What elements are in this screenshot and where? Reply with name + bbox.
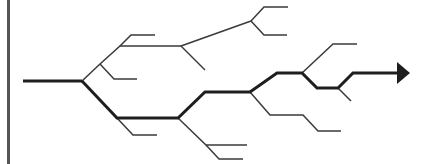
tree-branch <box>338 88 351 101</box>
branching-tree-diagram <box>0 0 431 164</box>
arrow-head-icon <box>397 62 410 84</box>
tree-branch <box>206 145 243 159</box>
left-vertical-bar <box>7 0 10 164</box>
tree-branch <box>302 44 357 73</box>
tree-branch <box>181 46 205 70</box>
tree-branch <box>181 21 251 46</box>
tree-branch <box>120 35 155 46</box>
tree-branches <box>82 7 357 159</box>
tree-branch <box>100 64 137 79</box>
tree-branch <box>82 46 181 81</box>
tree-branch <box>178 118 247 145</box>
tree-branch <box>251 7 288 21</box>
tree-branch <box>117 118 157 135</box>
tree-branch <box>250 92 341 131</box>
tree-branch <box>251 21 287 35</box>
